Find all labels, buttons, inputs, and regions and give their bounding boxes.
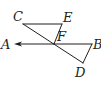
label-E: E <box>62 10 73 25</box>
label-F: F <box>56 29 67 44</box>
label-C: C <box>13 9 23 24</box>
label-B: B <box>92 37 101 52</box>
label-A: A <box>0 37 10 52</box>
segment-BD <box>83 44 92 63</box>
label-D: D <box>74 65 86 80</box>
geometry-figure: C E F A B D <box>0 0 101 86</box>
